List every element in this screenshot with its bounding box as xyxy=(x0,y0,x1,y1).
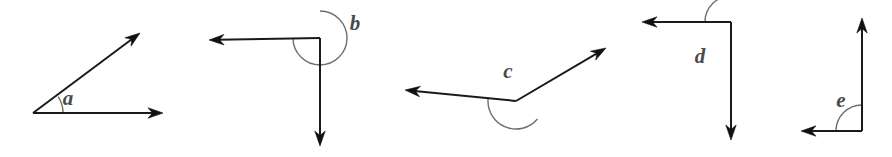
ray-c-upper-right-arrowhead-icon xyxy=(590,48,606,60)
angle-figure-c: c xyxy=(405,48,606,129)
angle-label-d: d xyxy=(695,44,706,68)
angles-figure: abcde xyxy=(0,0,892,157)
ray-c-upper-right xyxy=(516,53,598,101)
angle-figure-b: b xyxy=(209,11,360,146)
ray-c-left xyxy=(414,91,516,101)
angle-figure-d: d xyxy=(642,0,736,140)
angle-arc-c xyxy=(488,99,537,129)
angle-figure-e: e xyxy=(801,18,867,136)
angle-arc-d xyxy=(705,0,731,22)
angle-label-b: b xyxy=(350,11,361,35)
angle-label-c: c xyxy=(503,59,513,83)
ray-b-left xyxy=(219,38,321,40)
ray-a-upper xyxy=(33,39,132,113)
angle-figure-a: a xyxy=(33,33,163,118)
ray-a-upper-arrowhead-icon xyxy=(125,33,140,46)
angle-label-a: a xyxy=(63,86,74,110)
angle-diagram-canvas: abcde xyxy=(0,0,892,157)
angle-label-e: e xyxy=(836,88,845,112)
